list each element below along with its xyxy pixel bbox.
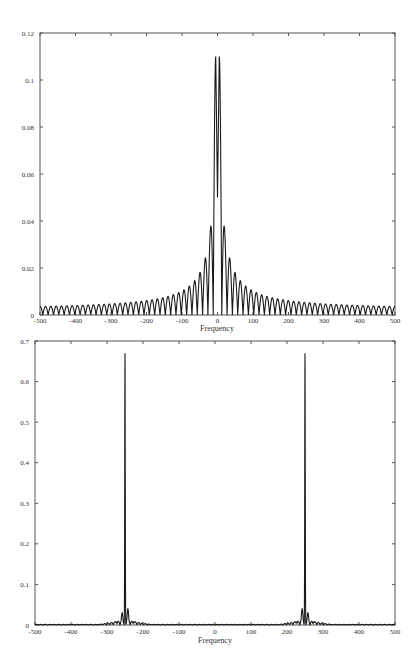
top-spectrum-line [40,57,395,316]
y-tick-label: 0.7 [20,338,29,346]
y-tick-label: 0.02 [22,265,35,273]
x-tick-label: -300 [105,317,118,325]
x-tick-label: 300 [318,628,329,636]
y-tick-label: 0.1 [20,581,29,589]
y-tick-label: 0.5 [20,419,29,427]
bottom-y-axis-ticks: 00.10.20.30.40.50.60.7 [20,338,395,630]
x-tick-label: -100 [176,317,189,325]
y-tick-label: 0.08 [22,124,35,132]
x-tick-label: -400 [65,628,78,636]
x-tick-label: -400 [69,317,82,325]
figure: -500-400-300-200-1000100200300400500 00.… [0,0,416,664]
x-tick-label: 500 [390,317,401,325]
top-chart: -500-400-300-200-1000100200300400500 00.… [22,30,401,334]
x-tick-label: 0 [213,628,217,636]
x-tick-label: 100 [248,317,259,325]
bottom-x-axis-title: Frequency [198,636,232,645]
y-tick-label: 0.3 [20,500,29,508]
x-tick-label: 400 [354,317,365,325]
top-x-axis-title: Frequency [200,324,234,333]
y-tick-label: 0.12 [22,30,35,38]
y-tick-label: 0.6 [20,378,29,386]
x-tick-label: -500 [34,317,47,325]
x-tick-label: -300 [101,628,114,636]
bottom-spectrum-line [35,353,395,625]
x-tick-label: 500 [390,628,401,636]
x-tick-label: 200 [283,317,294,325]
x-tick-label: -200 [140,317,153,325]
x-tick-label: -200 [137,628,150,636]
bottom-x-axis-ticks: -500-400-300-200-1000100200300400500 [29,341,401,636]
x-tick-label: 300 [319,317,330,325]
y-tick-label: 0.04 [22,218,35,226]
y-tick-label: 0 [26,622,30,630]
y-tick-label: 0.1 [25,77,34,85]
x-tick-label: 200 [282,628,293,636]
y-tick-label: 0.2 [20,540,29,548]
y-tick-label: 0 [31,312,35,320]
bottom-plot-frame [35,341,395,625]
x-tick-label: -500 [29,628,42,636]
x-tick-label: 400 [354,628,365,636]
bottom-chart: -500-400-300-200-1000100200300400500 00.… [20,338,401,646]
y-tick-label: 0.06 [22,171,35,179]
x-tick-label: -100 [173,628,186,636]
x-tick-label: 100 [246,628,257,636]
y-tick-label: 0.4 [20,459,29,467]
